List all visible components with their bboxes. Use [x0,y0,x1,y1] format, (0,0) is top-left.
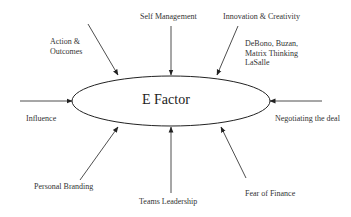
action-outcomes-label: Action & Outcomes [50,37,82,56]
personal-branding-arrow [80,127,118,180]
influence-label: Influence [26,114,56,124]
negotiating-label: Negotiating the deal [275,114,340,124]
self-management-label: Self Management [140,12,197,22]
action-outcomes-line1: Action & [50,37,82,47]
innovation-note: DeBono, Buzan, Matrix Thinking LaSalle [245,39,298,68]
teams-leadership-label: Teams Leadership [139,197,197,207]
action-outcomes-line2: Outcomes [50,47,82,57]
innovation-note-line1: DeBono, Buzan, [245,39,298,49]
fear-of-finance-label: Fear of Finance [245,189,295,199]
innovation-creativity-arrow [217,26,238,75]
action-outcomes-arrow [88,24,118,75]
innovation-note-line3: LaSalle [245,58,298,68]
personal-branding-label: Personal Branding [34,182,93,192]
fear-of-finance-arrow [221,127,246,178]
innovation-creativity-label: Innovation & Creativity [223,12,300,22]
innovation-note-line2: Matrix Thinking [245,49,298,59]
e-factor-label: E Factor [142,92,190,108]
